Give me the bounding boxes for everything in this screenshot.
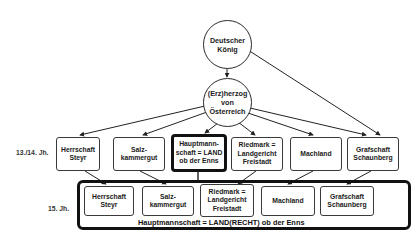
arrow-duke-to-riedmark — [238, 122, 255, 135]
row2-box-riedmark: Riedmark = Landgericht Freistadt — [200, 184, 254, 217]
arrow-duke-to-schaunberg — [250, 108, 366, 135]
arrow-duke-to-salzkammergut — [143, 112, 207, 135]
row1-box-herrschaft-steyr: Herrschaft Steyr — [56, 137, 100, 171]
frame-label: Hauptmannschaft = LAND(RECHT) ob der Enn… — [138, 218, 305, 227]
row2-box-salzkammergut: Salz- kammergut — [142, 186, 194, 216]
row1-box-machland: Machland — [290, 137, 342, 171]
row1-box-grafschaft-schaunberg: Grafschaft Schaunberg — [347, 137, 399, 171]
row2-box-herrschaft-steyr: Herrschaft Steyr — [84, 186, 134, 216]
row-label-13-14-jh: 13./14. Jh. — [16, 149, 49, 156]
row-label-15-jh: 15. Jh. — [48, 205, 69, 212]
node-deutscher-koenig: Deutscher König — [203, 20, 252, 69]
row1-box-salzkammergut: Salz- kammergut — [113, 137, 165, 171]
node-erzherzog-oesterreich: (Erz)herzog von Österreich — [203, 78, 252, 127]
arrow-king-to-schaunberg — [248, 50, 380, 135]
arrow-duke-to-steyr — [80, 106, 205, 135]
row2-box-machland: Machland — [261, 186, 315, 216]
arrow-duke-to-machland — [248, 113, 313, 135]
row2-box-grafschaft-schaunberg: Grafschaft Schaunberg — [320, 186, 374, 216]
row1-box-hauptmannschaft: Hauptmann- schaft = LAND ob der Enns — [171, 134, 227, 172]
row1-box-riedmark: Riedmark = Landgericht Freistadt — [231, 137, 283, 171]
